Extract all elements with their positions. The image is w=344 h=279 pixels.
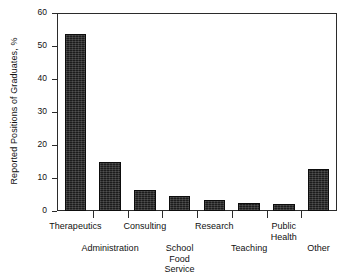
x-tick-mark [162, 211, 163, 218]
bar [169, 196, 191, 211]
x-axis-label: Consulting [107, 221, 183, 232]
x-tick-mark [93, 211, 94, 218]
bar [273, 204, 295, 211]
y-tick-mark [52, 211, 57, 212]
x-tick-mark [232, 211, 233, 218]
y-tick-label: 10 [38, 172, 47, 183]
y-axis-title: Reported Positions of Graduates, % [9, 11, 19, 211]
y-tick-label: 60 [38, 7, 47, 18]
y-tick-label: 0 [42, 205, 47, 216]
bar [65, 34, 87, 211]
bar [204, 200, 226, 211]
x-axis-label: Other [281, 243, 344, 254]
x-axis-label: Administration [72, 243, 148, 254]
x-tick-mark [301, 211, 302, 218]
x-tick-mark [267, 211, 268, 218]
bar [308, 169, 330, 211]
y-tick-label: 40 [38, 73, 47, 84]
x-tick-mark [128, 211, 129, 218]
bars-layer [58, 14, 336, 211]
x-axis-label: Public Health [246, 221, 322, 242]
y-tick-label: 20 [38, 139, 47, 150]
bar [99, 162, 121, 211]
x-axis-label: Therapeutics [37, 221, 113, 232]
x-axis-label: Teaching [211, 243, 287, 254]
bar [134, 190, 156, 211]
x-tick-mark [197, 211, 198, 218]
bar [238, 203, 260, 211]
x-axis-label: Research [176, 221, 252, 232]
y-tick-label: 50 [38, 40, 47, 51]
y-tick-label: 30 [38, 106, 47, 117]
x-axis-label: School Food Service [142, 243, 218, 275]
bar-chart: Reported Positions of Graduates, % 01020… [0, 0, 344, 279]
